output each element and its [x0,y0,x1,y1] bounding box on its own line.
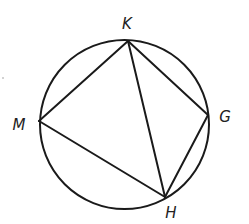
circumscribed-circle [40,40,209,209]
segment-KH [128,41,165,197]
label-K: K [122,15,133,33]
label-M: M [13,116,26,134]
label-G: G [219,108,231,126]
stray-dot [2,77,4,79]
circle-diagram: K G H M [0,0,249,224]
segment-HG [165,115,208,197]
label-H: H [165,204,176,222]
segment-MH [39,121,165,197]
